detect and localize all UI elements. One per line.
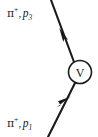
incoming-pion-line bbox=[48, 82, 76, 137]
incoming-particle-label: π+,p1 bbox=[7, 118, 32, 130]
outgoing-label-comma: , bbox=[18, 7, 21, 19]
outgoing-pion-line bbox=[51, 0, 74, 62]
feynman-diagram-canvas: V π+,p3 π+,p1 bbox=[0, 0, 98, 137]
outgoing-particle-label: π+,p3 bbox=[7, 8, 32, 20]
vertex-label: V bbox=[76, 66, 85, 80]
incoming-label-comma: , bbox=[18, 117, 21, 129]
incoming-momentum-index: 1 bbox=[28, 123, 32, 132]
outgoing-momentum-index: 3 bbox=[28, 13, 32, 22]
